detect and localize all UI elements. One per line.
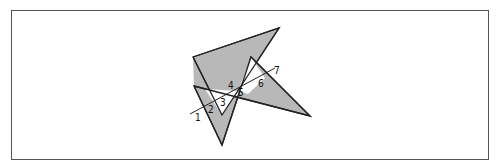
segment-label-5: 5	[238, 87, 244, 98]
segment-label-3: 3	[220, 97, 226, 108]
segment-label-7: 7	[274, 65, 280, 76]
segment-label-4: 4	[228, 80, 234, 91]
segment-label-1: 1	[195, 112, 201, 123]
segment-label-6: 6	[258, 78, 264, 89]
diagram-canvas: 1 2 3 4 5 6 7	[0, 0, 502, 167]
segment-label-2: 2	[208, 104, 214, 115]
